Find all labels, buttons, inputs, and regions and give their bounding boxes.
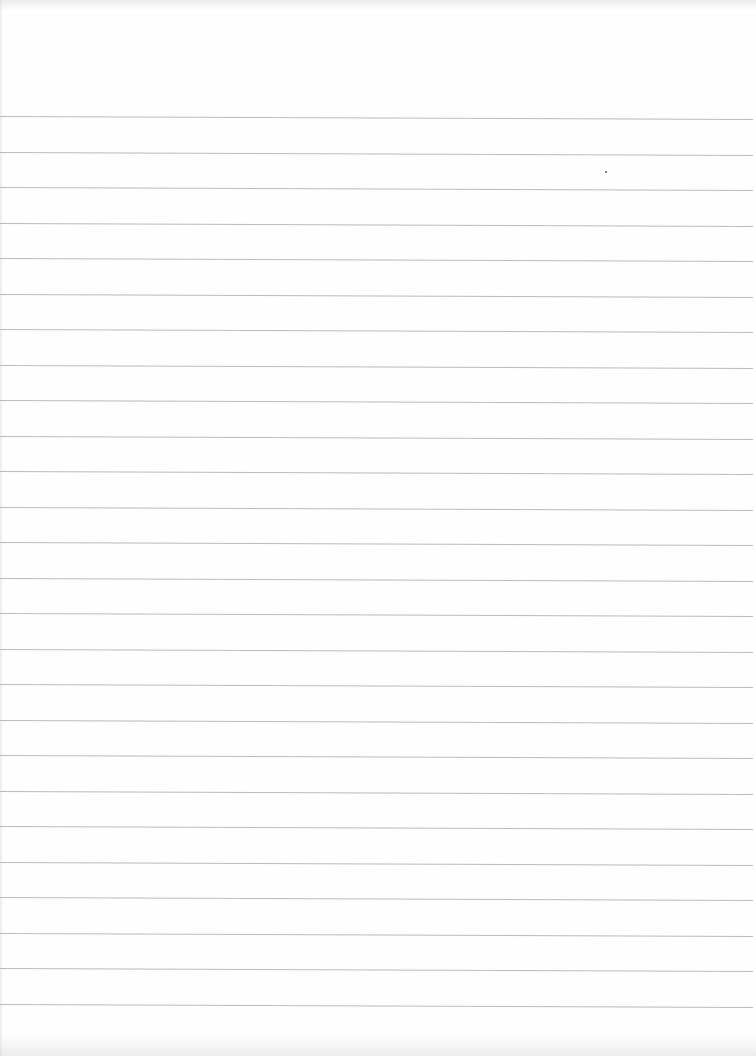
ruled-line [0, 933, 753, 937]
ruled-line [0, 365, 753, 369]
ruled-line [0, 223, 753, 227]
ruled-line [0, 755, 753, 759]
ruled-line [0, 968, 753, 972]
ruled-line [0, 187, 753, 191]
ruled-line [0, 826, 753, 830]
ruled-line [0, 684, 753, 688]
speck-mark [605, 171, 607, 173]
ruled-line [0, 649, 753, 653]
ruled-line [0, 897, 753, 901]
ruled-line [0, 791, 753, 795]
ruled-line [0, 1004, 753, 1008]
ruled-line [0, 329, 753, 333]
ruled-lines [0, 0, 756, 1056]
lined-paper-sheet [0, 0, 756, 1056]
ruled-line [0, 258, 753, 262]
ruled-line [0, 542, 753, 546]
ruled-line [0, 507, 753, 511]
ruled-line [0, 294, 753, 298]
ruled-line [0, 578, 753, 582]
ruled-line [0, 436, 753, 440]
ruled-line [0, 720, 753, 724]
ruled-line [0, 400, 753, 404]
ruled-line [0, 152, 753, 156]
ruled-line [0, 613, 753, 617]
ruled-line [0, 862, 753, 866]
ruled-line [0, 116, 753, 120]
ruled-line [0, 471, 753, 475]
